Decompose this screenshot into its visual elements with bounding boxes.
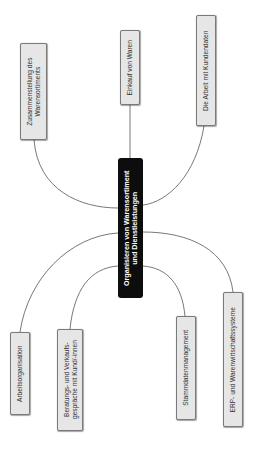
- link-kundendaten: [143, 126, 204, 205]
- link-zusammenstellung: [34, 140, 118, 208]
- node-arbeitsorganisation[interactable]: Arbeitsorganisation: [10, 332, 30, 415]
- node-zusammenstellung[interactable]: Zusammenstellung des Warensortiments: [20, 43, 47, 140]
- root-label-line-2: und Dienstleistungen: [131, 170, 139, 286]
- link-erp: [143, 232, 233, 292]
- node-stammdaten[interactable]: Stammdatenmanagement: [176, 316, 196, 420]
- node-label-line-2: gespräche mit Kund/-innen: [70, 341, 78, 420]
- root-node[interactable]: Organisieren von Warensortiment und Dien…: [118, 158, 143, 298]
- node-beratung[interactable]: Beratungs- und Verkaufs- gespräche mit K…: [57, 329, 83, 431]
- node-einkauf[interactable]: Einkauf von Waren: [120, 30, 140, 105]
- link-arbeitsorganisation: [20, 233, 118, 332]
- node-label-line-1: Zusammenstellung des: [26, 57, 34, 125]
- node-label: Die Arbeit mit Kundendaten: [202, 30, 210, 110]
- link-stammdaten: [143, 266, 185, 316]
- node-label: Einkauf von Waren: [126, 40, 134, 95]
- node-label-line-1: Beratungs- und Verkaufs-: [62, 341, 70, 420]
- link-beratung: [70, 266, 118, 329]
- node-label: Arbeitsorganisation: [16, 345, 24, 401]
- node-label: Stammdatenmanagement: [182, 330, 190, 406]
- node-label: ERP- und Warenwirtschaftssysteme: [229, 307, 237, 412]
- node-kundendaten[interactable]: Die Arbeit mit Kundendaten: [196, 15, 216, 126]
- node-erp[interactable]: ERP- und Warenwirtschaftssysteme: [223, 292, 243, 427]
- node-label-line-2: Warensortiments: [34, 57, 42, 125]
